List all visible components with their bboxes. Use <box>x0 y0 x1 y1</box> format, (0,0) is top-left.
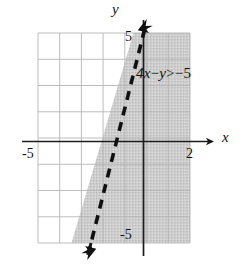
inequality-left-term: 4x <box>136 65 151 81</box>
inequality-graph-figure: x y 5 -5 -5 2 4x−y>−5 <box>0 0 244 268</box>
y-tick-label-neg5: -5 <box>120 228 132 242</box>
inequality-right-term: −5 <box>175 65 191 81</box>
x-tick-label-neg5: -5 <box>22 147 34 161</box>
inequality-annotation: 4x−y>−5 <box>136 66 191 81</box>
inequality-relation: > <box>166 65 175 81</box>
y-axis-label: y <box>112 2 119 17</box>
x-tick-label-2: 2 <box>186 147 193 161</box>
y-tick-label-5: 5 <box>125 30 132 44</box>
x-axis-label: x <box>222 130 229 145</box>
inequality-minus-sign: − <box>151 65 160 81</box>
